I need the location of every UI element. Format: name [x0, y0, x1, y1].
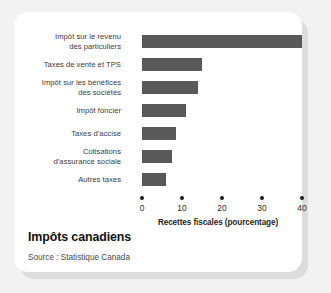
bar-category-label-line: Impôt sur les bénéfices: [42, 78, 121, 88]
x-axis-tick-dot: [260, 196, 264, 200]
figure-background: Impôt sur le revenudes particuliersTaxes…: [0, 0, 331, 293]
bar: [142, 104, 186, 117]
x-axis-tick-label: 0: [127, 203, 157, 213]
bar: [142, 58, 202, 71]
bar-category-label-line: des particuliers: [69, 42, 121, 52]
bar-category-label-line: Taxes d'accise: [71, 129, 121, 139]
bar-category-label: Impôt sur les bénéficesdes sociétés: [14, 76, 125, 99]
bar-category-label: Taxes de vente et TPS: [14, 53, 125, 76]
chart-title: Impôts canadiens: [28, 230, 131, 244]
x-axis-tick-dot: [140, 196, 144, 200]
bar-category-label-line: d'assurance sociale: [54, 157, 121, 167]
bar-row: Autres taxes: [14, 168, 302, 191]
bar-category-label-line: Taxes de vente et TPS: [44, 60, 121, 70]
bar-category-label-line: Impôt sur le revenu: [55, 32, 121, 42]
bar: [142, 173, 166, 186]
x-axis-tick-dot: [180, 196, 184, 200]
bar: [142, 127, 176, 140]
bar-row: Taxes d'accise: [14, 122, 302, 145]
x-axis-tick-label: 10: [167, 203, 197, 213]
bar-row: Impôt foncier: [14, 99, 302, 122]
bar-row: Cotisationsd'assurance sociale: [14, 145, 302, 168]
bar: [142, 150, 172, 163]
x-axis-tick-dot: [220, 196, 224, 200]
bar-row: Taxes de vente et TPS: [14, 53, 302, 76]
bar-chart-plot-area: Impôt sur le revenudes particuliersTaxes…: [14, 12, 302, 200]
bar-category-label-line: Impôt foncier: [76, 106, 121, 116]
x-axis-tick-label: 20: [207, 203, 237, 213]
chart-source-note: Source : Statistique Canada: [28, 253, 130, 262]
chart-card: Impôt sur le revenudes particuliersTaxes…: [14, 12, 302, 272]
bar-category-label: Cotisationsd'assurance sociale: [14, 145, 125, 168]
bar: [142, 81, 198, 94]
bar-category-label-line: Cotisations: [83, 147, 121, 157]
bar-category-label: Impôt sur le revenudes particuliers: [14, 30, 125, 53]
bar: [142, 35, 302, 48]
bar-category-label: Impôt foncier: [14, 99, 125, 122]
bar-row: Impôt sur le revenudes particuliers: [14, 30, 302, 53]
bar-row: Impôt sur les bénéficesdes sociétés: [14, 76, 302, 99]
x-axis-title: Recettes fiscales (pourcentage): [128, 218, 308, 227]
x-axis-tick-label: 40: [287, 203, 317, 213]
x-axis-tick-dot: [300, 196, 304, 200]
x-axis-tick-label: 30: [247, 203, 277, 213]
bar-category-label-line: des sociétés: [78, 88, 121, 98]
bar-category-label: Autres taxes: [14, 168, 125, 191]
bar-category-label: Taxes d'accise: [14, 122, 125, 145]
bar-category-label-line: Autres taxes: [78, 175, 121, 185]
